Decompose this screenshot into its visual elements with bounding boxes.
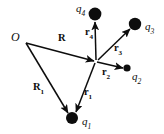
vector-label-r2: r2: [102, 67, 110, 80]
charge-label-q2: q2: [132, 71, 141, 85]
origin-label: O: [11, 31, 20, 43]
charge-label-q4: q4: [76, 3, 85, 17]
charge-dot-q2: [123, 64, 130, 71]
charge-label-q3: q3: [145, 21, 154, 35]
charge-label-q1: q1: [82, 116, 91, 130]
vector-label-r4: r4: [85, 27, 93, 40]
vector-arrow-r4: [95, 22, 96, 60]
vector-label-R1: R1: [33, 82, 44, 95]
vector-label-R: R: [58, 33, 65, 44]
vector-label-r3: r3: [114, 43, 122, 56]
charge-dot-q3: [129, 18, 141, 30]
vector-arrow-R: [26, 43, 94, 61]
charge-label-subscript: 4: [82, 9, 86, 18]
vector-label-r1: r1: [84, 87, 92, 100]
charge-label-subscript: 1: [88, 122, 92, 131]
charge-label-subscript: 3: [151, 27, 155, 36]
vector-label-subscript: 4: [89, 33, 92, 41]
charge-label-main: q: [132, 70, 138, 82]
charge-dot-q1: [66, 112, 78, 124]
charge-dot-q4: [89, 8, 102, 21]
diagram-canvas: [0, 0, 164, 134]
charge-label-subscript: 2: [138, 77, 142, 86]
charge-label-main: q: [82, 115, 88, 127]
vector-diagram: RR1r1r2r3r4q1q2q3q4O: [0, 0, 164, 134]
vector-arrow-group: [26, 22, 130, 113]
vector-arrow-R1: [26, 43, 68, 113]
charge-label-main: q: [76, 2, 82, 14]
vector-arrow-r2: [97, 62, 123, 68]
vector-label-main: R: [58, 32, 65, 43]
charge-label-main: q: [145, 20, 151, 32]
vector-label-subscript: 3: [118, 49, 121, 57]
vector-label-subscript: 2: [106, 73, 109, 81]
vector-label-subscript: 1: [40, 88, 43, 96]
vector-label-subscript: 1: [88, 93, 91, 101]
